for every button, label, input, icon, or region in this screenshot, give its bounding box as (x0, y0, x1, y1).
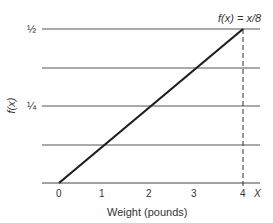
chart-canvas (0, 0, 273, 223)
x-tick-2: 2 (146, 189, 152, 199)
y-axis-label: f(x) (6, 98, 17, 114)
x-tick-3: 3 (191, 189, 197, 199)
x-axis-label: Weight (pounds) (107, 207, 188, 218)
formula-label: f(x) = x/8 (218, 13, 261, 24)
y-tick-quarter: ¼ (27, 101, 36, 112)
x-tick-0: 0 (56, 189, 62, 199)
x-tick-4: 4 (240, 189, 246, 199)
x-axis-end-label: X (254, 189, 261, 199)
x-tick-1: 1 (99, 189, 105, 199)
y-tick-half: ½ (27, 24, 36, 35)
